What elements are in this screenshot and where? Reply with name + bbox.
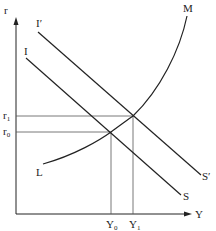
i-label: I (24, 45, 28, 57)
s-prime-label: S′ (202, 170, 211, 182)
y-axis-label: r (4, 4, 8, 16)
m-label: M (183, 2, 193, 14)
is-curve (26, 58, 181, 195)
r0-label: r0 (3, 125, 11, 139)
x-axis-arrow-icon (184, 212, 192, 217)
is-lm-diagram: r Y I I′ S S′ L M r1 r0 Y0 Y1 (0, 0, 216, 231)
x-axis-label: Y (195, 208, 203, 220)
y1-label: Y1 (129, 218, 141, 231)
s-label: S (183, 190, 189, 202)
lm-curve (43, 16, 187, 164)
r1-label: r1 (3, 109, 11, 123)
y0-label: Y0 (106, 218, 118, 231)
is-prime-curve (38, 32, 201, 175)
l-label: L (36, 166, 43, 178)
i-prime-label: I′ (36, 17, 42, 29)
y-axis-arrow-icon (14, 17, 19, 25)
